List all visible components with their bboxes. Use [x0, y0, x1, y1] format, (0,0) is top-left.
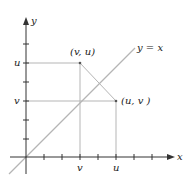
x-tick-label-u: u: [113, 162, 119, 173]
x-tick-label-v: v: [77, 162, 83, 173]
point-vu-label: (v, u): [70, 46, 95, 57]
x-axis-arrow-icon: [167, 154, 175, 160]
point-vu: [79, 62, 82, 65]
x-axis-label: x: [177, 151, 183, 162]
point-uv: [115, 100, 118, 103]
y-tick-label-v: v: [14, 95, 20, 106]
reflection-diagram: y x y = x (v, u) (u, v ) u v v u: [0, 0, 184, 179]
y-axis-arrow-icon: [23, 17, 29, 25]
y-axis-label: y: [30, 15, 37, 26]
line-label: y = x: [136, 42, 163, 53]
point-uv-label: (u, v ): [121, 95, 151, 106]
y-tick-label-u: u: [14, 57, 20, 68]
